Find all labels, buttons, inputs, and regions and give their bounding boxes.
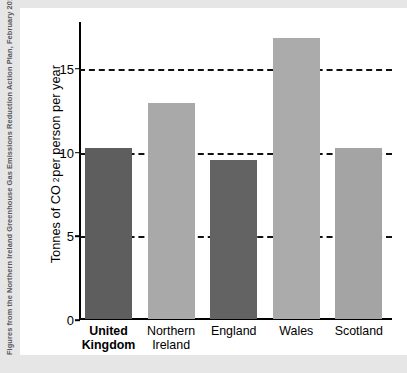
y-tick-label: 0 — [67, 313, 74, 328]
bar-scotland — [335, 148, 382, 319]
y-tick-mark — [75, 235, 80, 237]
y-axis-title-part2: per person per year — [48, 65, 63, 180]
gridline-15 — [79, 69, 392, 71]
category-label-line: Northern — [141, 324, 202, 338]
category-label-line: Scotland — [328, 324, 389, 338]
y-axis-title: Tonnes of CO2 per person per year — [45, 8, 67, 320]
y-tick-mark — [75, 68, 80, 70]
y-tick-mark — [75, 319, 80, 321]
y-tick-label: 5 — [67, 229, 74, 244]
category-label-line: Ireland — [141, 338, 202, 352]
bar-united-kingdom — [85, 148, 132, 319]
y-axis-line — [79, 22, 81, 320]
y-tick-label: 15 — [60, 61, 74, 76]
bar-northern-ireland — [148, 103, 195, 319]
category-label-wales: Wales — [266, 324, 327, 338]
category-label-united-kingdom: UnitedKingdom — [78, 324, 139, 352]
bar-wales — [273, 38, 320, 319]
bar-england — [210, 160, 257, 319]
y-tick-label: 10 — [60, 145, 74, 160]
y-tick-mark — [75, 152, 80, 154]
y-axis-title-subscript: 2 — [51, 178, 61, 183]
category-label-scotland: Scotland — [328, 324, 389, 338]
category-label-northern-ireland: NorthernIreland — [141, 324, 202, 352]
category-label-line: Wales — [266, 324, 327, 338]
plot-area: 051015 — [79, 22, 392, 320]
y-axis-title-part1: Tonnes of CO — [48, 185, 63, 263]
y-axis-title-text: Tonnes of CO2 per person per year — [50, 65, 63, 263]
source-caption: Figures from the Northern Ireland Greenh… — [0, 0, 20, 355]
chart-panel: Tonnes of CO2 per person per year 051015… — [20, 8, 407, 355]
category-label-line: England — [203, 324, 264, 338]
category-label-england: England — [203, 324, 264, 338]
x-axis-category-labels: UnitedKingdomNorthernIrelandEnglandWales… — [79, 324, 392, 364]
category-label-line: Kingdom — [78, 338, 139, 352]
category-label-line: United — [78, 324, 139, 338]
source-caption-text: Figures from the Northern Ireland Greenh… — [6, 0, 13, 355]
